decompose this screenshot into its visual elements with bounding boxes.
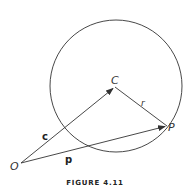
point-label-p: P [168, 121, 175, 134]
vector-label-c: c [42, 131, 48, 142]
point-label-o: O [10, 160, 19, 173]
point-label-c: C [111, 74, 119, 87]
radius-label-r: r [141, 98, 146, 108]
vector-circle-diagram: C P O c p r FIGURE 4.11 [0, 0, 190, 192]
vector-label-p: p [65, 154, 72, 165]
vector-c-arrow [21, 89, 113, 164]
figure-caption: FIGURE 4.11 [66, 179, 124, 187]
